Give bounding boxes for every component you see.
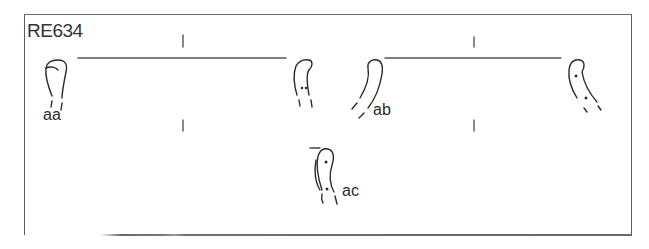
- label-ab: ab: [373, 102, 391, 118]
- label-ac: ac: [342, 183, 359, 199]
- figure-frame: [24, 14, 632, 235]
- figure-title: RE634: [27, 21, 83, 40]
- figure-frame-bottom-edge: [100, 234, 632, 236]
- label-aa: aa: [43, 107, 61, 123]
